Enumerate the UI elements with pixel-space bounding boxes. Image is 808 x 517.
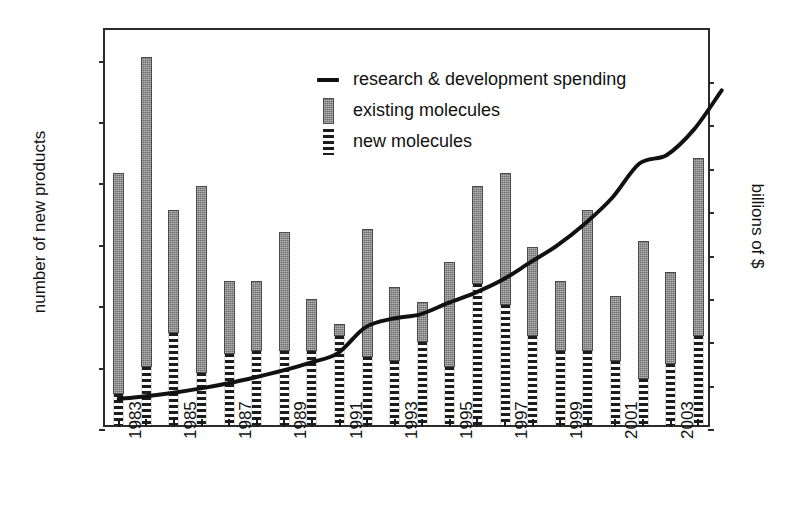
x-tick-1983 — [118, 419, 120, 427]
x-tick-1985 — [173, 419, 175, 427]
bar-1984 — [141, 57, 152, 425]
bar-1998 — [527, 247, 538, 425]
x-tick-1994 — [421, 419, 423, 427]
bar-2002 — [638, 241, 649, 425]
legend-item-existing-molecules: existing molecules — [311, 95, 641, 126]
plot-area: 020406080100120 0510152025303540 1983198… — [103, 28, 710, 427]
x-tick-label-1995: 1995 — [457, 401, 477, 439]
bar-segment-new-1995 — [444, 367, 455, 425]
bar-segment-existing-1999 — [555, 281, 566, 352]
bar-segment-new-1997 — [500, 305, 511, 425]
bar-segment-existing-2000 — [582, 210, 593, 351]
bar-segment-existing-1983 — [113, 173, 124, 394]
y-axis-left-title: number of new products — [30, 92, 50, 352]
bar-1995 — [444, 262, 455, 425]
bar-segment-new-1987 — [224, 354, 235, 425]
bar-1989 — [279, 232, 290, 425]
legend-item-rnd-spending: research & development spending — [311, 64, 641, 95]
x-tick-2002 — [642, 419, 644, 427]
y-tick-mark-left — [99, 245, 105, 247]
x-tick-1984 — [145, 419, 147, 427]
x-tick-2000 — [587, 419, 589, 427]
x-tick-1999 — [559, 419, 561, 427]
y-tick-mark-right — [708, 299, 714, 301]
bar-segment-existing-1986 — [196, 186, 207, 373]
x-tick-1987 — [228, 419, 230, 427]
legend-label-new-molecules: new molecules — [345, 131, 472, 152]
bar-1997 — [500, 173, 511, 425]
bar-segment-existing-2004 — [693, 158, 704, 336]
bar-1987 — [224, 281, 235, 425]
x-tick-label-1989: 1989 — [291, 401, 311, 439]
y-tick-mark-left — [99, 306, 105, 308]
bar-segment-existing-1996 — [472, 186, 483, 284]
bar-segment-existing-1984 — [141, 57, 152, 367]
y-tick-mark-right — [708, 82, 714, 84]
x-tick-1991 — [339, 419, 341, 427]
bar-1986 — [196, 186, 207, 425]
y-tick-mark-right — [708, 429, 714, 431]
x-tick-label-2003: 2003 — [678, 401, 698, 439]
bar-2003 — [665, 272, 676, 425]
y-tick-mark-left — [99, 368, 105, 370]
bar-1985 — [168, 210, 179, 425]
legend-label-rnd-spending: research & development spending — [345, 69, 626, 90]
y-tick-mark-right — [708, 342, 714, 344]
x-tick-label-2001: 2001 — [622, 401, 642, 439]
chart-legend: research & development spending existing… — [311, 64, 641, 157]
bar-segment-existing-1992 — [362, 229, 373, 358]
y-axis-right-title: billions of $ — [747, 141, 767, 311]
bar-segment-existing-1985 — [168, 210, 179, 333]
x-tick-2001 — [614, 419, 616, 427]
bar-segment-existing-1998 — [527, 247, 538, 336]
y-tick-mark-right — [708, 125, 714, 127]
y-tick-mark-left — [99, 61, 105, 63]
bar-segment-existing-2001 — [610, 296, 621, 360]
x-tick-label-1993: 1993 — [402, 401, 422, 439]
bar-segment-existing-1990 — [306, 299, 317, 351]
new-swatch-icon — [311, 129, 345, 155]
bar-segment-existing-2003 — [665, 272, 676, 364]
bar-segment-new-1993 — [389, 361, 400, 425]
x-tick-label-1987: 1987 — [236, 401, 256, 439]
x-tick-1995 — [449, 419, 451, 427]
bar-segment-new-1999 — [555, 351, 566, 425]
x-tick-1990 — [311, 419, 313, 427]
bar-segment-existing-1993 — [389, 287, 400, 361]
y-tick-mark-left — [99, 122, 105, 124]
bar-segment-existing-1988 — [251, 281, 262, 352]
bar-segment-new-2003 — [665, 364, 676, 425]
y-tick-mark-right — [708, 256, 714, 258]
bar-segment-existing-1995 — [444, 262, 455, 366]
x-tick-1988 — [256, 419, 258, 427]
y-tick-mark-right — [708, 386, 714, 388]
x-tick-label-1999: 1999 — [567, 401, 587, 439]
x-tick-label-1997: 1997 — [512, 401, 532, 439]
bar-segment-new-1989 — [279, 351, 290, 425]
legend-label-existing-molecules: existing molecules — [345, 100, 500, 121]
existing-swatch-icon — [311, 98, 345, 124]
bar-segment-new-2001 — [610, 361, 621, 425]
x-tick-2003 — [670, 419, 672, 427]
x-tick-1992 — [366, 419, 368, 427]
x-tick-1986 — [201, 419, 203, 427]
x-tick-1989 — [283, 419, 285, 427]
bar-segment-existing-1997 — [500, 173, 511, 305]
x-tick-1997 — [504, 419, 506, 427]
x-tick-label-1983: 1983 — [126, 401, 146, 439]
x-tick-1996 — [476, 419, 478, 427]
bar-1996 — [472, 186, 483, 425]
y-tick-mark-left — [99, 183, 105, 185]
bar-segment-new-1985 — [168, 333, 179, 425]
bar-2004 — [693, 158, 704, 425]
bar-segment-new-1991 — [334, 336, 345, 425]
bar-segment-existing-1987 — [224, 281, 235, 355]
bar-1993 — [389, 287, 400, 425]
y-tick-mark-right — [708, 169, 714, 171]
chart-figure: number of new products billions of $ 020… — [0, 0, 808, 517]
legend-item-new-molecules: new molecules — [311, 126, 641, 157]
x-tick-label-1991: 1991 — [347, 401, 367, 439]
x-tick-label-1985: 1985 — [181, 401, 201, 439]
bar-1983 — [113, 173, 124, 425]
bar-2001 — [610, 296, 621, 425]
